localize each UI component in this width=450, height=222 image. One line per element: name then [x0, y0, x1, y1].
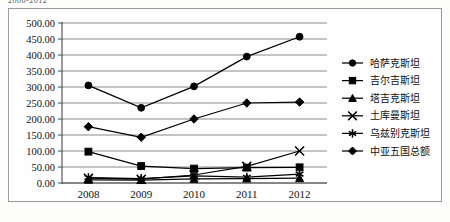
chart-legend: 哈萨克斯坦吉尔吉斯坦塔吉克斯坦土库曼斯坦乌兹别克斯坦中亚五国总额 [342, 57, 430, 157]
y-axis-tick-label: 250.00 [26, 98, 55, 109]
gridlines-group [62, 23, 327, 183]
legend-label: 塔吉克斯坦 [370, 92, 420, 104]
diamond-marker [243, 99, 251, 107]
circle-marker [191, 83, 198, 90]
legend-label: 哈萨克斯坦 [370, 57, 420, 69]
legend-item[interactable]: 中亚五国总额 [342, 145, 430, 157]
square-marker [349, 77, 355, 83]
x-axis-tick-label: 2009 [130, 188, 153, 200]
series-line [88, 37, 299, 108]
y-axis-tick-label: 50.00 [31, 162, 55, 173]
legend-item[interactable]: 土库曼斯坦 [342, 109, 420, 121]
circle-marker [349, 60, 355, 66]
y-axis-tick-label: 200.00 [26, 114, 55, 125]
legend-label: 中亚五国总额 [370, 145, 430, 157]
circle-marker [296, 33, 303, 40]
legend-label: 土库曼斯坦 [370, 109, 420, 121]
legend-item[interactable]: 吉尔吉斯坦 [342, 74, 420, 86]
data-series-group [84, 33, 304, 183]
legend-item[interactable]: 乌兹别克斯坦 [342, 127, 430, 139]
x-axis-tick-label: 2010 [183, 188, 206, 200]
x-axis-tick-label: 2008 [77, 188, 100, 200]
chart-root: 2008-2012 0.0050.00100.00150.00200.00250… [0, 0, 450, 222]
circle-marker [138, 104, 145, 111]
diamond-marker [84, 122, 92, 130]
x-axis-tick-label: 2012 [289, 188, 311, 200]
circle-marker [243, 53, 250, 60]
series-circle [85, 33, 303, 111]
y-axis-tick-labels: 0.0050.00100.00150.00200.00250.00300.003… [26, 18, 55, 189]
legend-item[interactable]: 塔吉克斯坦 [342, 92, 420, 104]
square-marker [85, 148, 92, 155]
legend-item[interactable]: 哈萨克斯坦 [342, 57, 420, 69]
y-axis-tick-label: 150.00 [26, 130, 55, 141]
y-axis-tick-label: 100.00 [26, 146, 55, 157]
square-marker [138, 163, 145, 170]
diamond-marker [349, 147, 357, 155]
diamond-marker [137, 133, 145, 141]
y-axis-tick-label: 300.00 [26, 82, 55, 93]
y-axis-tick-label: 500.00 [26, 18, 55, 29]
y-axis-tick-label: 0.00 [37, 178, 55, 189]
line-chart-plot: 0.0050.00100.00150.00200.00250.00300.003… [0, 0, 450, 222]
legend-label: 乌兹别克斯坦 [370, 127, 430, 139]
x-axis-tick-labels: 20082009201020112012 [77, 188, 310, 200]
diamond-marker [190, 115, 198, 123]
diamond-marker [295, 98, 303, 106]
x-axis-tick-label: 2011 [236, 188, 258, 200]
square-marker [191, 165, 198, 172]
circle-marker [85, 82, 92, 89]
y-axis-tick-label: 350.00 [26, 66, 55, 77]
legend-label: 吉尔吉斯坦 [370, 74, 420, 86]
y-axis-tick-label: 400.00 [26, 50, 55, 61]
y-axis-tick-label: 450.00 [26, 34, 55, 45]
